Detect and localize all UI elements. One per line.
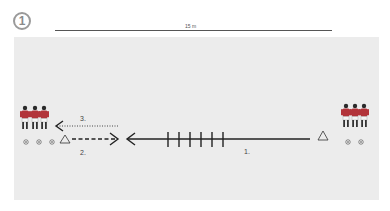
left-player-group [20, 106, 54, 144]
label-run: 1. [244, 148, 250, 155]
cone-left-icon [60, 135, 70, 143]
drill-diagram [0, 0, 390, 211]
cone-right-icon [318, 131, 328, 140]
label-return: 3. [80, 115, 86, 122]
label-pass: 2. [80, 149, 86, 156]
right-player-group [341, 104, 369, 144]
